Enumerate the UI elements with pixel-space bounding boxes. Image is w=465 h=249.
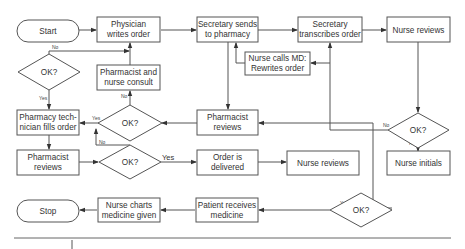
svg-text:reviews: reviews — [214, 123, 242, 132]
svg-text:Nurse reviews: Nurse reviews — [393, 26, 445, 35]
pharmacist-reviews-mid-box: Pharmacist reviews — [197, 110, 258, 135]
medication-process-flowchart: No Yes No Yes No Yes No Yes Yes No Start… — [0, 0, 465, 249]
ok-left-decision: OK? — [18, 54, 80, 90]
svg-text:Pharmacist and: Pharmacist and — [100, 68, 157, 77]
svg-text:Order is: Order is — [213, 153, 242, 162]
svg-text:Secretary: Secretary — [312, 20, 348, 29]
svg-text:Pharmacy tech-: Pharmacy tech- — [19, 113, 77, 122]
svg-text:Nurse initials: Nurse initials — [395, 159, 442, 168]
svg-text:OK?: OK? — [122, 158, 139, 167]
svg-text:medicine: medicine — [211, 211, 244, 220]
patient-receives-box: Patient receives medicine — [196, 198, 258, 222]
pharmacist-reviews-left-box: Pharmacist reviews — [17, 150, 79, 175]
nurse-initials-box: Nurse initials — [387, 151, 450, 175]
svg-text:OK?: OK? — [41, 68, 58, 77]
nurse-reviews-mid-box: Nurse reviews — [287, 151, 359, 175]
nurse-calls-md-box: Nurse calls MD: Rewrites order — [245, 52, 310, 75]
physician-writes-order-box: Physician writes order — [97, 17, 160, 42]
ok-pharmacist-decision: OK? — [98, 105, 162, 141]
svg-text:OK?: OK? — [353, 206, 370, 215]
edge-label-no: No — [99, 139, 106, 145]
svg-text:medicine given: medicine given — [102, 211, 157, 220]
svg-text:Secretary sends: Secretary sends — [198, 20, 257, 29]
ok-nurse-decision: OK? — [388, 113, 449, 148]
svg-text:Nurse charts: Nurse charts — [106, 201, 152, 210]
svg-text:OK?: OK? — [410, 126, 427, 135]
edge-label-no: No — [383, 122, 390, 128]
svg-text:Rewrites order: Rewrites order — [251, 64, 305, 73]
svg-text:Nurse reviews: Nurse reviews — [297, 159, 349, 168]
svg-text:Patient receives: Patient receives — [198, 201, 256, 210]
svg-text:nurse consult: nurse consult — [104, 78, 153, 87]
pharmacist-nurse-consult-box: Pharmacist and nurse consult — [97, 65, 160, 90]
edge-label-no: No — [121, 93, 128, 99]
edge-label-yes: Yes — [92, 115, 101, 121]
edge-label-yes: Yes — [39, 95, 48, 101]
svg-text:transcribes order: transcribes order — [299, 30, 361, 39]
pharmacy-tech-fills-box: Pharmacy tech- nician fills order — [17, 110, 79, 135]
svg-text:OK?: OK? — [122, 119, 139, 128]
ok-bottom-decision: OK? — [330, 193, 392, 227]
svg-text:writes order: writes order — [106, 30, 150, 39]
svg-text:Physician: Physician — [111, 20, 146, 29]
edge-label-no: No — [52, 44, 59, 50]
stop-terminal: Stop — [17, 200, 79, 222]
svg-text:Nurse calls MD:: Nurse calls MD: — [249, 54, 307, 63]
svg-text:nician fills order: nician fills order — [20, 123, 77, 132]
secretary-transcribes-box: Secretary transcribes order — [298, 17, 362, 42]
edge-label-yes: Yes — [162, 153, 174, 162]
secretary-sends-box: Secretary sends to pharmacy — [197, 17, 258, 42]
svg-text:delivered: delivered — [211, 163, 245, 172]
ok-final-check-decision: OK? — [99, 145, 161, 179]
svg-text:Start: Start — [39, 27, 57, 36]
svg-text:Pharmacist: Pharmacist — [28, 153, 70, 162]
nurse-charts-box: Nurse charts medicine given — [98, 198, 160, 222]
svg-text:to pharmacy: to pharmacy — [205, 30, 251, 39]
svg-text:reviews: reviews — [34, 163, 62, 172]
nurse-reviews-top-box: Nurse reviews — [387, 17, 450, 42]
order-delivered-box: Order is delivered — [197, 150, 258, 175]
svg-text:Pharmacist: Pharmacist — [207, 113, 249, 122]
start-terminal: Start — [17, 20, 79, 42]
svg-text:Stop: Stop — [40, 207, 57, 216]
